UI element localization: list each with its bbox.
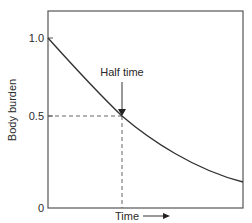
y-tick-label-05: 0.5 [29,110,44,122]
plot-frame [48,11,243,208]
decay-curve [48,38,243,182]
decay-chart: 1.0 0.5 0 Half time Body burden Time [0,0,252,223]
x-axis-arrow-icon [163,213,170,219]
y-axis-label: Body burden [6,79,18,141]
y-tick-label-1: 1.0 [29,32,44,44]
half-time-label: Half time [100,66,143,78]
x-axis-label: Time [115,210,139,222]
y-tick-label-0: 0 [38,202,44,214]
